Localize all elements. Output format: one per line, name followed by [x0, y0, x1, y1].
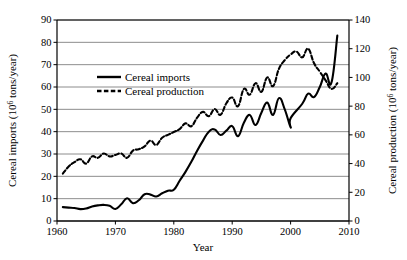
- y-tick-label-right: 40: [355, 158, 366, 169]
- y-axis-title-right-text2: tons/year): [386, 47, 399, 94]
- y-tick-label-left: 80: [41, 37, 52, 48]
- y-tick-label-left: 10: [41, 193, 52, 204]
- y-axis-title-right: Cereal production (106 tons/year): [386, 47, 399, 194]
- y-tick-label-right: 80: [355, 101, 366, 112]
- x-tick-label: 1990: [222, 226, 243, 237]
- y-tick-label-left: 70: [41, 59, 52, 70]
- y-tick-label-left: 90: [41, 14, 52, 25]
- y-tick-label-right: 120: [355, 43, 371, 54]
- y-tick-label-right: 20: [355, 187, 366, 198]
- y-axis-title-left-text2: tons/year): [6, 54, 19, 101]
- y-axis-title-left-text: Cereal imports (10: [6, 104, 19, 187]
- y-tick-label-left: 40: [41, 126, 52, 137]
- x-tick-label: 2000: [280, 226, 301, 237]
- x-tick-label: 2010: [339, 226, 360, 237]
- y-axis-title-right-text: Cereal production (10: [386, 97, 399, 194]
- legend-label-cereal-imports[interactable]: Cereal imports: [125, 71, 190, 83]
- y-tick-label-right: 60: [355, 129, 366, 140]
- x-tick-label: 1970: [105, 226, 126, 237]
- y-tick-label-left: 20: [41, 171, 52, 182]
- y-tick-label-left: 50: [41, 104, 52, 115]
- y-axis-title-left: Cereal imports (106 tons/year): [6, 54, 19, 187]
- cereal-imports-production-line-chart: 0102030405060708090020406080100120140196…: [0, 0, 407, 260]
- y-tick-label-left: 0: [46, 215, 51, 226]
- y-tick-label-left: 60: [41, 81, 52, 92]
- y-tick-label-right: 100: [355, 72, 371, 83]
- legend-label-cereal-production[interactable]: Cereal production: [125, 85, 205, 97]
- x-tick-label: 1960: [47, 226, 68, 237]
- x-tick-label: 1980: [163, 226, 184, 237]
- y-tick-label-right: 0: [355, 215, 360, 226]
- chart-container: 0102030405060708090020406080100120140196…: [0, 0, 407, 260]
- y-tick-label-right: 140: [355, 14, 371, 25]
- x-axis-title: Year: [193, 241, 214, 253]
- y-tick-label-left: 30: [41, 148, 52, 159]
